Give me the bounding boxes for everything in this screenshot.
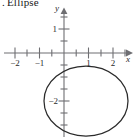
y-tick-label-1: 1 — [53, 24, 58, 34]
y-axis-label: y — [54, 3, 59, 13]
x-tick-label-minus1: −1 — [35, 58, 45, 68]
ellipse-figure: .Ellipse −2 −1 1 — [0, 0, 135, 137]
x-tick-label-2: 2 — [111, 58, 116, 68]
x-axis-label: x — [125, 54, 130, 64]
y-axis-arrow — [61, 8, 68, 15]
y-tick-label-minus2: −2 — [48, 96, 58, 106]
x-tick-label-minus2: −2 — [10, 58, 20, 68]
x-tick-label-1: 1 — [86, 58, 91, 68]
coordinate-plot: −2 −1 1 2 1 −2 x y — [0, 0, 135, 137]
